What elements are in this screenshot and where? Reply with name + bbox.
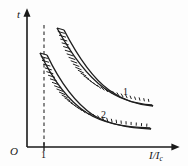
curve-2-label: 2 bbox=[101, 110, 106, 120]
curve-1-end-cap bbox=[152, 105, 153, 106]
curve-1-hatching bbox=[58, 31, 149, 102]
curve-band-2 bbox=[40, 53, 151, 129]
x-axis-label-subscript: c bbox=[159, 154, 162, 163]
y-axis-label: t bbox=[17, 9, 20, 20]
x-axis-label-main: I/I bbox=[149, 149, 159, 161]
x-axis-tick-label-1: 1 bbox=[41, 150, 46, 160]
physics-figure: t I/Ic O 1 1 2 bbox=[0, 0, 188, 166]
origin-label: O bbox=[10, 146, 18, 157]
curve-2-end-cap bbox=[150, 128, 151, 129]
curve-1-label: 1 bbox=[123, 87, 128, 97]
x-axis-label: I/Ic bbox=[149, 150, 163, 163]
plot-canvas bbox=[0, 0, 188, 166]
